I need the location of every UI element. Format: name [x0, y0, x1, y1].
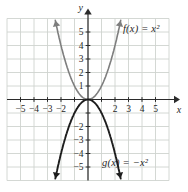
- y-tick-label: 3: [79, 54, 84, 64]
- x-tick-label: 4: [140, 104, 145, 114]
- x-tick-label: −5: [15, 104, 25, 114]
- x-tick-label: −2: [56, 104, 66, 114]
- x-tick-label: 3: [126, 104, 131, 114]
- y-tick-label: 4: [79, 41, 84, 51]
- y-tick-label: 1: [79, 81, 84, 91]
- y-tick-label: −4: [73, 149, 83, 159]
- curve-f-arrow-icon: [116, 20, 123, 27]
- parabola-graph-figure: −5−4−3−2234554321−2−3−4−5xy f(x) = x² g(…: [0, 0, 188, 192]
- y-axis-arrow-icon: [84, 9, 91, 15]
- x-tick-label: 2: [113, 104, 118, 114]
- curve-f-arrow-icon: [53, 20, 60, 27]
- x-tick-label: −4: [29, 104, 39, 114]
- y-tick-label: −5: [73, 162, 83, 172]
- y-axis-label: y: [78, 2, 84, 13]
- x-axis-arrow-icon: [174, 96, 180, 103]
- curve-g-arrow-icon: [116, 172, 123, 179]
- y-tick-label: −3: [73, 135, 83, 145]
- y-tick-label: 2: [79, 68, 84, 78]
- x-tick-label: −3: [42, 104, 52, 114]
- curve-label-g: g(x) = −x²: [102, 157, 148, 168]
- curve-label-f: f(x) = x²: [123, 23, 160, 34]
- y-tick-label: −2: [73, 122, 83, 132]
- x-axis-label: x: [176, 104, 182, 115]
- x-tick-label: 5: [153, 104, 158, 114]
- curve-g-arrow-icon: [53, 172, 60, 179]
- y-tick-label: 5: [79, 27, 84, 37]
